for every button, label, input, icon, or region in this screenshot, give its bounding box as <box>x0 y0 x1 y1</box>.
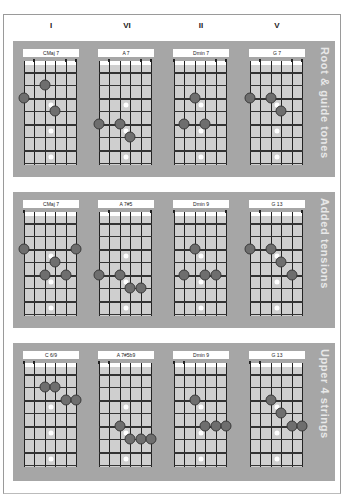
fret-line <box>99 98 152 100</box>
chord-name: A 7#5b9 <box>98 351 154 359</box>
fret-line <box>99 236 152 237</box>
fret-line <box>99 275 152 277</box>
finger-dot <box>19 92 30 103</box>
string-marker-icon <box>183 361 185 364</box>
chord-name: G 7 <box>249 49 305 57</box>
finger-dot <box>221 420 232 431</box>
nut <box>174 61 227 65</box>
fret-line <box>174 413 227 414</box>
fretboard <box>250 61 303 165</box>
finger-dot <box>210 420 221 431</box>
fret-line <box>99 413 152 414</box>
fret-line <box>24 137 77 138</box>
string-marker-icon <box>249 361 251 364</box>
chord-name: G 13 <box>249 351 305 359</box>
fret-line <box>250 374 303 376</box>
fret-inlay-icon <box>199 306 204 311</box>
string-marker-icon <box>173 59 175 62</box>
fret-inlay-icon <box>49 405 54 410</box>
nut <box>174 363 227 367</box>
fret-line <box>174 439 227 440</box>
string-marker-icon <box>150 210 152 213</box>
nut <box>99 61 152 65</box>
column-header-vi: VI <box>123 21 131 30</box>
fret-line <box>24 426 77 428</box>
string-marker-icon <box>150 59 152 62</box>
fret-line <box>174 314 227 315</box>
fret-line <box>24 85 77 86</box>
finger-dot <box>245 243 256 254</box>
finger-dot <box>297 420 308 431</box>
string-marker-icon <box>23 210 25 213</box>
finger-dot <box>265 243 276 254</box>
fret-inlay-icon <box>124 306 129 311</box>
finger-dot <box>114 269 125 280</box>
panel-root-guide-tones: Root & guide tonesCMaj 7A 7Dmin 7G 7 <box>13 41 335 177</box>
nut <box>24 363 77 367</box>
finger-dot <box>189 243 200 254</box>
chord-name: CMaj 7 <box>23 49 79 57</box>
fretboard <box>99 363 152 467</box>
fret-line <box>174 262 227 263</box>
fretboard <box>99 61 152 165</box>
string-marker-icon <box>75 59 77 62</box>
fret-inlay-icon <box>275 306 280 311</box>
finger-dot <box>19 243 30 254</box>
chord-name: A 7#5 <box>98 200 154 208</box>
fret-line <box>99 314 152 315</box>
fret-line <box>174 387 227 388</box>
finger-dot <box>265 394 276 405</box>
string-marker-icon <box>108 210 110 213</box>
panel-title: Added tensions <box>319 198 331 289</box>
fret-line <box>250 124 303 126</box>
fret-inlay-icon <box>199 431 204 436</box>
fret-inlay-icon <box>124 405 129 410</box>
fret-line <box>250 465 303 466</box>
fret-line <box>174 111 227 112</box>
chord-name: C 6/9 <box>23 351 79 359</box>
column-header-ii: II <box>199 21 203 30</box>
fretboard <box>250 212 303 316</box>
finger-dot <box>210 269 221 280</box>
fret-line <box>174 249 227 251</box>
nut <box>24 212 77 216</box>
fret-line <box>24 124 77 126</box>
fret-line <box>24 374 77 376</box>
nut <box>99 363 152 367</box>
fret-line <box>24 314 77 315</box>
fretboard <box>174 61 227 165</box>
fret-inlay-icon <box>199 405 204 410</box>
fret-line <box>174 137 227 138</box>
chord-name: Dmin 9 <box>173 351 229 359</box>
fretboard <box>24 61 77 165</box>
nut <box>250 363 303 367</box>
fret-line <box>174 236 227 237</box>
string-marker-icon <box>98 361 100 364</box>
string-marker-icon <box>301 59 303 62</box>
fret-line <box>99 400 152 402</box>
string-marker-icon <box>33 361 35 364</box>
column-header-v: V <box>274 21 279 30</box>
fret-line <box>24 465 77 466</box>
finger-dot <box>125 282 136 293</box>
fret-line <box>250 301 303 303</box>
finger-dot <box>179 269 190 280</box>
fret-line <box>174 223 227 225</box>
fretboard <box>174 212 227 316</box>
finger-dot <box>265 92 276 103</box>
fret-line <box>24 236 77 237</box>
finger-dot <box>179 118 190 129</box>
fret-inlay-icon <box>199 103 204 108</box>
fret-inlay-icon <box>124 254 129 259</box>
fret-line <box>174 400 227 402</box>
string-marker-icon <box>140 59 142 62</box>
nut <box>250 61 303 65</box>
finger-dot <box>200 420 211 431</box>
finger-dot <box>276 105 287 116</box>
fret-line <box>24 150 77 152</box>
fret-inlay-icon <box>275 155 280 160</box>
chord-name: G 13 <box>249 200 305 208</box>
fret-line <box>24 288 77 289</box>
finger-dot <box>60 269 71 280</box>
chord-name: A 7 <box>98 49 154 57</box>
